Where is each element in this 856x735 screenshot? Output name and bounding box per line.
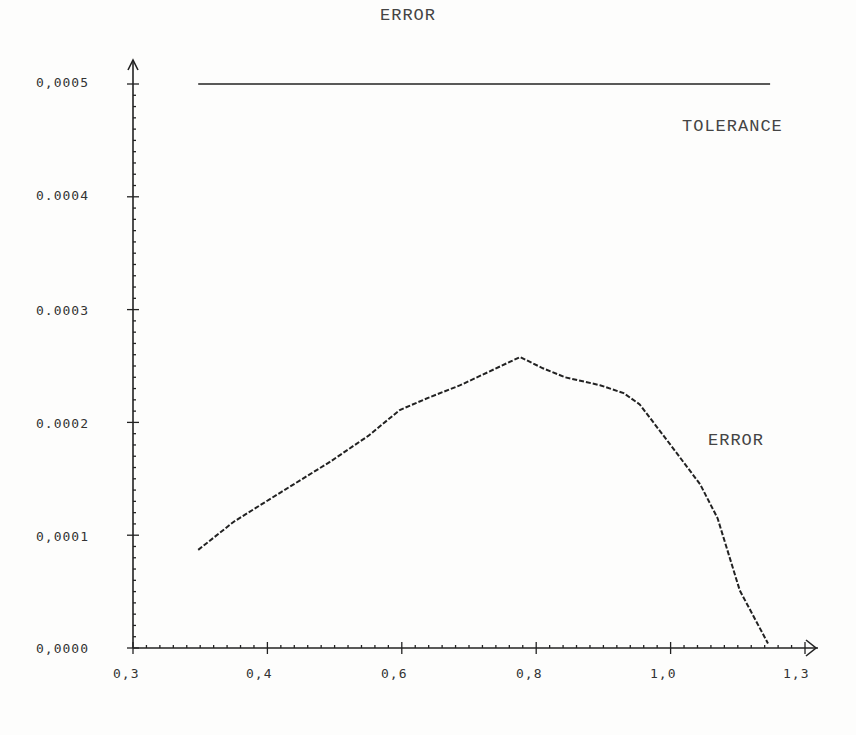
tolerance-annotation: TOLERANCE <box>682 117 783 136</box>
axes <box>128 60 818 656</box>
x-tick-label-3: 0,8 <box>516 666 542 681</box>
x-tick-label-2: 0,6 <box>381 666 407 681</box>
y-tick-label-2: 0.0002 <box>36 416 89 431</box>
chart-title: ERROR <box>380 6 436 25</box>
error-line <box>198 357 768 644</box>
y-tick-label-3: 0.0003 <box>36 303 89 318</box>
y-tick-label-5: 0,0005 <box>36 75 89 90</box>
error-annotation: ERROR <box>708 431 764 450</box>
axis-ticks <box>127 84 805 654</box>
x-tick-label-4: 1,0 <box>650 666 676 681</box>
x-tick-label-5: 1,3 <box>783 666 809 681</box>
x-tick-label-1: 0,4 <box>246 666 272 681</box>
y-tick-label-0: 0,0000 <box>36 641 89 656</box>
plot-area <box>0 0 856 735</box>
y-tick-label-4: 0.0004 <box>36 188 89 203</box>
y-tick-label-1: 0,0001 <box>36 529 89 544</box>
series-layer <box>198 84 770 644</box>
x-tick-label-0: 0,3 <box>113 666 139 681</box>
